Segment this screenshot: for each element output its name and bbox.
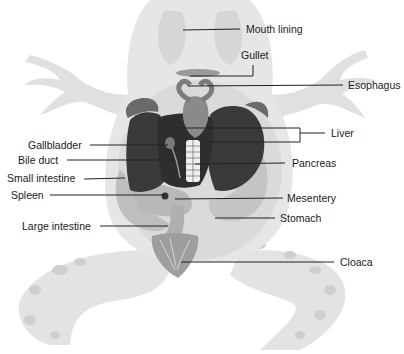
label-mesentery: Mesentery	[287, 192, 336, 204]
spleen	[162, 193, 169, 200]
label-pancreas: Pancreas	[292, 157, 336, 169]
label-small-intestine: Small intestine	[7, 172, 75, 184]
label-cloaca: Cloaca	[340, 256, 373, 268]
label-gallbladder: Gallbladder	[28, 139, 82, 151]
left-hind-leg	[19, 250, 170, 345]
label-spleen: Spleen	[11, 189, 44, 201]
left-arm	[25, 55, 130, 118]
right-hind-leg	[230, 250, 345, 350]
pancreas	[186, 140, 200, 182]
gallbladder	[165, 137, 175, 149]
label-liver: Liver	[331, 127, 354, 139]
label-gullet: Gullet	[241, 49, 268, 61]
label-large-intestine: Large intestine	[22, 220, 91, 232]
label-bile-duct: Bile duct	[18, 154, 58, 166]
label-mouth-lining: Mouth lining	[246, 23, 303, 35]
label-esophagus: Esophagus	[348, 79, 401, 91]
label-stomach: Stomach	[280, 212, 321, 224]
